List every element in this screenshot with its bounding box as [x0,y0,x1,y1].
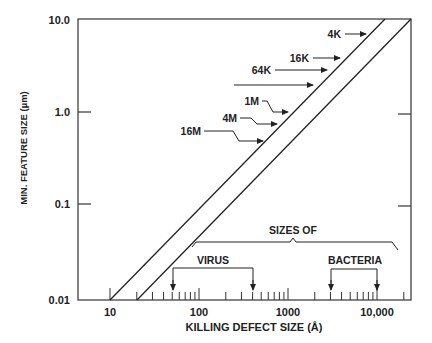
y-axis-ticks [78,112,411,206]
svg-text:10,000: 10,000 [360,306,394,318]
svg-text:1.0: 1.0 [55,106,70,118]
x-axis-ticks [110,288,404,300]
memory-annotations [204,34,366,141]
x-axis-title: KILLING DEFECT SIZE (Å) [186,321,323,333]
sizes-of-brace [192,238,398,250]
svg-text:10.0: 10.0 [49,14,70,26]
sizes-of-label: SIZES OF [269,224,317,236]
bacteria-range-bracket [331,269,377,290]
arrow-1m [262,101,288,112]
y-axis-tick-labels: 10.0 1.0 0.1 0.01 [49,14,70,306]
svg-text:4M: 4M [222,112,237,124]
svg-text:64K: 64K [252,64,272,76]
arrow-4m [240,118,277,124]
virus-label: VIRUS [197,254,229,266]
bacteria-label: BACTERIA [328,254,383,266]
svg-text:0.01: 0.01 [49,294,70,306]
svg-text:16M: 16M [181,125,202,137]
virus-range-bracket [173,268,253,290]
y-axis-title: MIN. FEATURE SIZE (µm) [18,91,29,205]
svg-text:16K: 16K [290,52,310,64]
svg-text:1M: 1M [244,95,259,107]
svg-text:0.1: 0.1 [55,198,70,210]
arrow-16m [204,131,263,141]
x-axis-tick-labels: 10 100 1000 10,000 [104,306,394,318]
svg-text:4K: 4K [328,28,342,40]
svg-text:1000: 1000 [276,306,300,318]
memory-labels: 4K 16K 64K 1M 4M 16M [181,28,342,137]
feature-size-vs-defect-size-chart: 10.0 1.0 0.1 0.01 MIN. FEATURE SIZE (µm)… [0,0,432,343]
svg-text:100: 100 [190,306,208,318]
svg-text:10: 10 [104,306,116,318]
